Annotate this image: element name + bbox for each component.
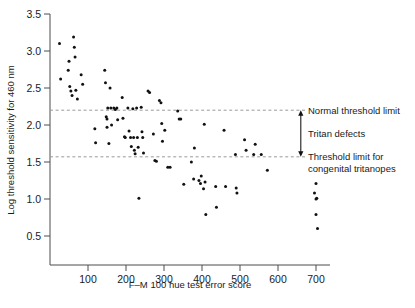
- data-point: [103, 69, 106, 72]
- data-point: [315, 197, 318, 200]
- tritan-defects-arrow: [298, 110, 303, 157]
- data-point: [142, 152, 145, 155]
- x-tick-label: 600: [269, 273, 287, 285]
- data-point: [224, 185, 227, 188]
- x-tick-label: 700: [307, 273, 325, 285]
- data-point: [110, 124, 113, 127]
- data-point: [136, 136, 139, 139]
- data-point: [148, 91, 151, 94]
- normal-threshold-limit-label: Normal threshold limit: [308, 105, 400, 116]
- tritan-defects-label: Tritan defects: [308, 128, 365, 139]
- data-point: [176, 109, 179, 112]
- data-point: [128, 129, 131, 132]
- threshold-reference-lines: [50, 110, 305, 157]
- data-point: [141, 136, 144, 139]
- x-axis-title: F–M 100 hue test error score: [129, 279, 252, 290]
- y-tick-label: 1.0: [26, 193, 41, 205]
- data-point: [204, 213, 207, 216]
- data-point: [130, 145, 133, 148]
- congenital-threshold-limit-label-line2: congenital tritanopes: [308, 163, 396, 174]
- data-point: [169, 166, 172, 169]
- data-point: [93, 127, 96, 130]
- y-axis-title: Log threshold sensitivity for 460 nm: [5, 65, 16, 215]
- data-point: [160, 122, 163, 125]
- scatter-plot-figure: 0.51.01.52.02.53.03.5 100200300400500600…: [0, 0, 415, 308]
- data-point: [121, 117, 124, 120]
- data-point: [71, 94, 74, 97]
- data-point: [254, 143, 257, 146]
- data-point: [69, 89, 72, 92]
- data-point: [315, 182, 318, 185]
- data-point: [68, 85, 71, 88]
- data-point: [155, 160, 158, 163]
- chart-canvas: 0.51.01.52.02.53.03.5 100200300400500600…: [0, 0, 415, 308]
- data-point: [59, 78, 62, 81]
- data-point: [116, 118, 119, 121]
- data-point: [161, 140, 164, 143]
- y-tick-label: 0.5: [26, 230, 41, 242]
- data-point: [134, 152, 137, 155]
- data-point: [126, 106, 129, 109]
- x-tick-label: 100: [79, 273, 97, 285]
- data-point: [215, 206, 218, 209]
- data-point: [104, 81, 107, 84]
- data-point: [72, 35, 75, 38]
- data-point: [109, 87, 112, 90]
- data-point: [266, 169, 269, 172]
- data-point: [109, 106, 112, 109]
- data-point: [81, 83, 84, 86]
- data-point: [203, 123, 206, 126]
- data-point: [140, 106, 143, 109]
- data-point: [235, 186, 238, 189]
- data-point: [235, 192, 238, 195]
- data-point: [204, 180, 207, 183]
- data-point: [200, 175, 203, 178]
- data-point: [129, 136, 132, 139]
- data-point: [193, 146, 196, 149]
- arrow-head-up-icon: [298, 110, 303, 116]
- data-point: [133, 149, 136, 152]
- y-tick-label: 2.0: [26, 119, 41, 131]
- data-point: [121, 96, 124, 99]
- data-point: [74, 55, 77, 58]
- data-point: [245, 149, 248, 152]
- data-point: [223, 129, 226, 132]
- data-point: [106, 126, 109, 129]
- data-point: [190, 161, 193, 164]
- y-tick-labels: 0.51.01.52.02.53.03.5: [26, 8, 41, 242]
- y-tick-label: 3.0: [26, 45, 41, 57]
- data-point: [76, 98, 79, 101]
- axis-lines: [50, 14, 330, 265]
- data-point: [73, 46, 76, 49]
- data-point: [94, 141, 97, 144]
- data-point: [115, 106, 118, 109]
- y-tick-label: 1.5: [26, 156, 41, 168]
- data-point: [106, 118, 109, 121]
- y-tick-label: 2.5: [26, 82, 41, 94]
- data-point: [80, 73, 83, 76]
- data-point: [197, 179, 200, 182]
- data-point: [137, 146, 140, 149]
- arrow-head-down-icon: [298, 151, 303, 157]
- data-point: [68, 60, 71, 63]
- data-point: [135, 106, 138, 109]
- axes-group: [50, 14, 330, 265]
- data-point: [124, 136, 127, 139]
- data-point: [107, 142, 110, 145]
- data-point: [199, 182, 202, 185]
- data-point: [131, 107, 134, 110]
- data-point: [313, 192, 316, 195]
- data-point: [316, 227, 319, 230]
- data-point: [140, 130, 143, 133]
- data-point: [67, 69, 70, 72]
- data-point: [234, 153, 237, 156]
- data-point: [58, 42, 61, 45]
- data-point: [214, 185, 217, 188]
- data-point: [192, 178, 195, 181]
- data-point: [179, 118, 182, 121]
- data-point: [252, 153, 255, 156]
- data-point: [243, 138, 246, 141]
- data-point: [74, 89, 77, 92]
- data-point: [132, 136, 135, 139]
- data-point: [106, 106, 109, 109]
